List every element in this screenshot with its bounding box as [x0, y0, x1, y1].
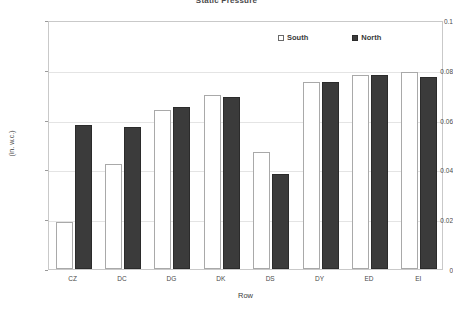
bar-north-dc: [124, 127, 141, 269]
x-tick-label-dy: DY: [315, 275, 324, 282]
y-tick-label: 0.06: [409, 117, 453, 124]
bar-group: [395, 22, 444, 269]
bar-south-ed: [352, 75, 369, 269]
y-tick-label: 0.04: [409, 167, 453, 174]
chart-legend: South North: [278, 33, 381, 42]
bar-south-dg: [154, 110, 171, 269]
y-tick-label: 0.1: [409, 18, 453, 25]
y-tick-label: 0.02: [409, 217, 453, 224]
static-pressure-bar-chart: Static Pressure (in. w.c.) 00.020.040.06…: [0, 0, 453, 309]
y-tick-mark: [45, 121, 48, 122]
bar-group: [345, 22, 394, 269]
plot-area: [48, 21, 443, 270]
bar-group: [49, 22, 98, 269]
x-tick-label-ds: DS: [266, 275, 275, 282]
y-tick-mark: [45, 220, 48, 221]
bar-north-dg: [173, 107, 190, 269]
x-tick-label-ei: EI: [415, 275, 421, 282]
y-tick-label: 0.08: [409, 67, 453, 74]
legend-swatch-south-icon: [278, 35, 284, 41]
x-tick-label-ed: ED: [364, 275, 373, 282]
bar-group: [247, 22, 296, 269]
legend-label-north: North: [361, 33, 381, 42]
x-tick-label-dc: DC: [117, 275, 126, 282]
bar-group: [98, 22, 147, 269]
bar-south-cz: [56, 222, 73, 269]
bar-group: [197, 22, 246, 269]
y-tick-mark: [45, 21, 48, 22]
legend-swatch-north-icon: [352, 35, 358, 41]
x-tick-label-dk: DK: [216, 275, 225, 282]
bar-north-ds: [272, 174, 289, 269]
bar-south-ds: [253, 152, 270, 269]
y-tick-mark: [45, 170, 48, 171]
y-axis: (in. w.c.): [0, 0, 48, 309]
chart-title: Static Pressure: [0, 0, 453, 5]
bar-south-dy: [303, 82, 320, 269]
bar-group: [296, 22, 345, 269]
bar-group: [148, 22, 197, 269]
legend-entry-north: North: [352, 33, 381, 42]
bar-south-dc: [105, 164, 122, 269]
x-tick-label-cz: CZ: [68, 275, 77, 282]
bar-north-ed: [371, 75, 388, 269]
bar-north-cz: [75, 125, 92, 269]
bar-north-dy: [322, 82, 339, 269]
x-tick-label-dg: DG: [167, 275, 177, 282]
y-tick-label: 0: [409, 267, 453, 274]
y-axis-title: (in. w.c.): [8, 114, 15, 174]
bar-south-dk: [204, 95, 221, 269]
y-tick-mark: [45, 71, 48, 72]
bar-north-dk: [223, 97, 240, 269]
y-tick-mark: [45, 270, 48, 271]
legend-entry-south: South: [278, 33, 308, 42]
legend-label-south: South: [287, 33, 308, 42]
x-axis-title: Row: [48, 291, 443, 300]
